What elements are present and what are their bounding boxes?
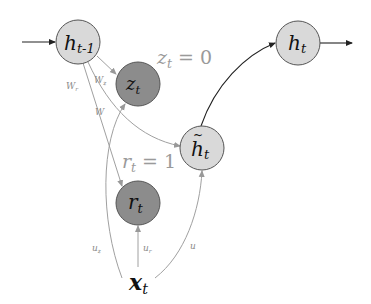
label-u: u xyxy=(190,241,196,251)
node-x-input: xt xyxy=(128,269,148,297)
label-u-r: ur xyxy=(143,243,153,254)
label-w: W xyxy=(95,107,105,117)
label-u-z: uz xyxy=(92,243,102,254)
svg-text:xt: xt xyxy=(128,269,148,297)
node-h: ht xyxy=(276,21,320,65)
node-h-tilde: ~ ht xyxy=(180,126,224,170)
annotation-r-equals: rt = 1 xyxy=(122,150,176,175)
label-w-r: Wr xyxy=(66,81,79,92)
edge-x-to-h-tilde xyxy=(155,171,202,278)
annotation-z-equals: zt = 0 xyxy=(156,46,212,71)
gru-diagram: ht-1 zt ~ ht ht rt xt Wr Wz W uz ur u zt… xyxy=(0,0,371,304)
node-h-prev: ht-1 xyxy=(56,20,100,64)
edge-h-prev-to-z xyxy=(97,56,116,74)
node-z-gate: zt xyxy=(116,62,160,106)
label-w-z: Wz xyxy=(94,75,107,86)
edge-h-tilde-to-h xyxy=(201,43,275,126)
node-r-gate: rt xyxy=(116,181,160,225)
